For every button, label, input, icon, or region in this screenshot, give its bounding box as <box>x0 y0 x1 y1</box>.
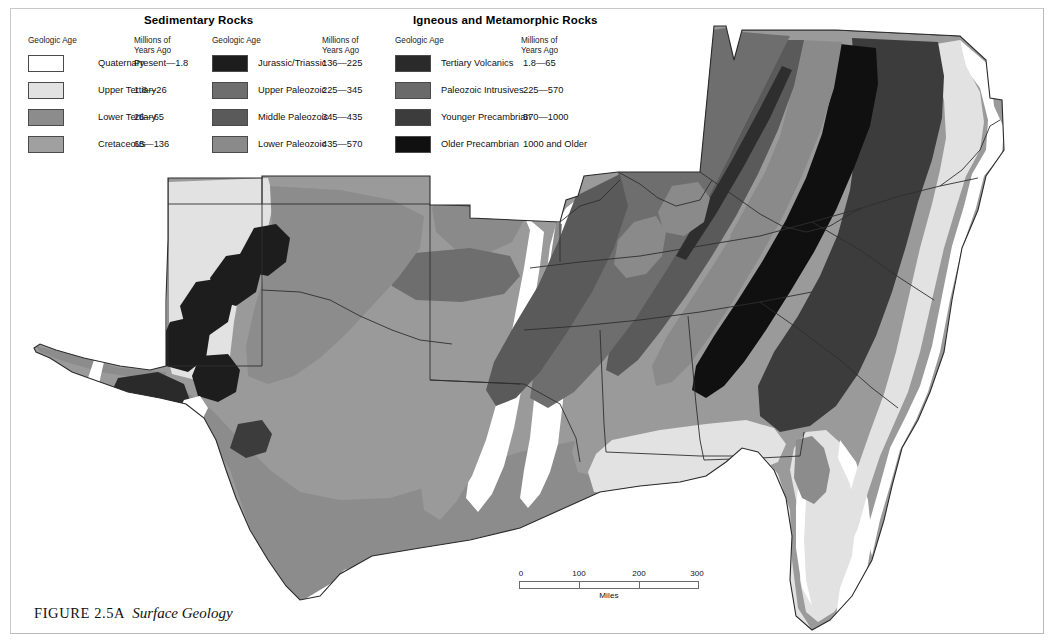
years-header3-line2: Years Ago <box>521 46 558 55</box>
scale-bar-units-label: Miles <box>519 591 699 600</box>
legend-row-older-precambrian[interactable]: Older Precambrian 1000 and Older <box>395 136 625 158</box>
legend-col-header-age-1: Geologic Age <box>28 36 77 46</box>
legend-years-lower-paleozoic: 435—570 <box>322 139 362 149</box>
legend-label-jurassic-triassic: Jurassic/Triassic <box>258 58 326 68</box>
legend-label-tertiary-volcanics: Tertiary Volcanics <box>441 58 513 68</box>
region-big-bend-volcanics <box>72 414 144 474</box>
legend-swatch-upper-paleozoic <box>212 82 248 99</box>
map-legend: Sedimentary Rocks Geologic Age Millions … <box>0 0 1052 170</box>
legend-swatch-paleozoic-intrusives <box>395 82 431 99</box>
legend-row-jurassic-triassic[interactable]: Jurassic/Triassic 136—225 <box>212 55 422 77</box>
legend-swatch-quaternary <box>28 55 64 72</box>
legend-swatch-lower-paleozoic <box>212 136 248 153</box>
legend-row-upper-paleozoic[interactable]: Upper Paleozoic 225—345 <box>212 82 422 104</box>
legend-row-younger-precambrian[interactable]: Younger Precambrian 570—1000 <box>395 109 625 131</box>
legend-label-older-precambrian: Older Precambrian <box>441 139 519 149</box>
legend-row-middle-paleozoic[interactable]: Middle Paleozoic 345—435 <box>212 109 422 131</box>
legend-row-lower-paleozoic[interactable]: Lower Paleozoic 435—570 <box>212 136 422 158</box>
scale-bar-ticks: 0 100 200 300 <box>519 569 699 581</box>
legend-swatch-older-precambrian <box>395 136 431 153</box>
legend-swatch-jurassic-triassic <box>212 55 248 72</box>
scale-tick-300: 300 <box>690 569 703 578</box>
legend-swatch-cretaceous <box>28 136 64 153</box>
legend-years-tertiary-volcanics: 1.8—65 <box>523 58 556 68</box>
legend-label-paleozoic-intrusives: Paleozoic Intrusives <box>441 85 524 95</box>
scale-bar: 0 100 200 300 Miles <box>519 569 699 600</box>
legend-row-upper-tertiary[interactable]: Upper Tertiary 1.8—26 <box>28 82 228 104</box>
intrusive-dot-2 <box>131 503 141 513</box>
years-header3-line1: Millions of <box>521 36 557 45</box>
legend-years-paleozoic-intrusives: 225—570 <box>523 85 563 95</box>
region-west-texas-quaternary-3 <box>58 440 88 490</box>
legend-col-header-age-3: Geologic Age <box>395 36 444 46</box>
scale-bar-track <box>519 581 699 589</box>
legend-row-paleozoic-intrusives[interactable]: Paleozoic Intrusives 225—570 <box>395 82 625 104</box>
years-header-line1: Millions of <box>134 36 170 45</box>
legend-years-upper-paleozoic: 225—345 <box>322 85 362 95</box>
legend-swatch-middle-paleozoic <box>212 109 248 126</box>
scale-tick-200: 200 <box>632 569 645 578</box>
legend-swatch-upper-tertiary <box>28 82 64 99</box>
legend-years-younger-precambrian: 570—1000 <box>523 112 569 122</box>
legend-years-lower-tertiary: 26—65 <box>134 112 164 122</box>
figure-number: FIGURE 2.5A <box>34 605 125 621</box>
legend-row-lower-tertiary[interactable]: Lower Tertiary 26—65 <box>28 109 228 131</box>
legend-years-older-precambrian: 1000 and Older <box>523 139 587 149</box>
legend-years-jurassic-triassic: 136—225 <box>322 58 362 68</box>
legend-row-cretaceous[interactable]: Cretaceous 65—136 <box>28 136 228 158</box>
legend-swatch-tertiary-volcanics <box>395 55 431 72</box>
legend-years-upper-tertiary: 1.8—26 <box>134 85 167 95</box>
figure-title: Surface Geology <box>132 605 232 621</box>
intrusive-dot-1 <box>112 492 124 504</box>
legend-swatch-younger-precambrian <box>395 109 431 126</box>
legend-title-sedimentary: Sedimentary Rocks <box>144 14 253 26</box>
years-header2-line2: Years Ago <box>322 46 359 55</box>
legend-col-header-years-3: Millions of Years Ago <box>521 36 558 55</box>
scale-bar-divider-2 <box>639 582 640 588</box>
years-header2-line1: Millions of <box>322 36 358 45</box>
figure-caption: FIGURE 2.5ASurface Geology <box>34 605 233 622</box>
legend-label-lower-paleozoic: Lower Paleozoic <box>258 139 326 149</box>
legend-label-middle-paleozoic: Middle Paleozoic <box>258 112 328 122</box>
legend-col-header-years-1: Millions of Years Ago <box>134 36 171 55</box>
legend-row-tertiary-volcanics[interactable]: Tertiary Volcanics 1.8—65 <box>395 55 625 77</box>
legend-row-quaternary[interactable]: Quaternary Present—1.8 <box>28 55 228 77</box>
legend-col-header-years-2: Millions of Years Ago <box>322 36 359 55</box>
region-marathon-uplift <box>116 450 166 496</box>
region-edwards-plateau <box>124 438 186 486</box>
legend-years-middle-paleozoic: 345—435 <box>322 112 362 122</box>
figure-page: Sedimentary Rocks Geologic Age Millions … <box>0 0 1052 644</box>
scale-tick-100: 100 <box>572 569 585 578</box>
legend-label-upper-paleozoic: Upper Paleozoic <box>258 85 326 95</box>
years-header-line2: Years Ago <box>134 46 171 55</box>
region-west-texas-quaternary-2 <box>42 374 66 418</box>
region-west-texas-dark <box>46 448 110 504</box>
scale-bar-divider-1 <box>579 582 580 588</box>
scale-tick-0: 0 <box>519 569 523 578</box>
legend-years-cretaceous: 65—136 <box>134 139 169 149</box>
legend-title-igneous: Igneous and Metamorphic Rocks <box>413 14 598 26</box>
legend-years-quaternary: Present—1.8 <box>134 58 188 68</box>
legend-col-header-age-2: Geologic Age <box>212 36 261 46</box>
intrusive-dot-3 <box>95 487 105 497</box>
legend-swatch-lower-tertiary <box>28 109 64 126</box>
legend-label-younger-precambrian: Younger Precambrian <box>441 112 531 122</box>
